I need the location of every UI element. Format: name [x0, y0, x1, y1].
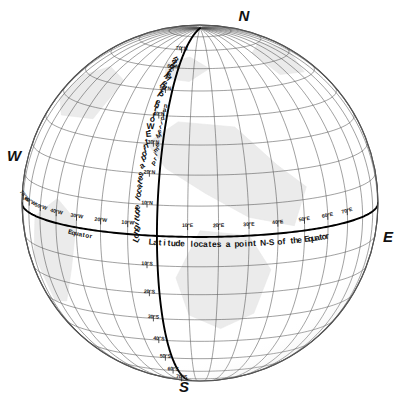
svg-text:a: a: [203, 239, 208, 249]
lat-tick-10°S: 10°S: [141, 260, 153, 267]
svg-text:s: s: [217, 239, 222, 249]
lat-tick-20°S: 20°S: [144, 288, 156, 295]
globe-svg: 10°N20°N30°N40°N50°N60°N70°N10°S20°S30°S…: [0, 0, 400, 400]
lat-tick-50°S: 50°S: [160, 352, 172, 359]
south-pole-label: S: [179, 378, 189, 395]
svg-text:S: S: [269, 237, 276, 247]
lat-tick-60°S: 60°S: [167, 365, 179, 372]
east-label: E: [383, 228, 394, 245]
north-pole-label: N: [239, 7, 251, 24]
sphere-outline: [22, 25, 378, 381]
west-label: W: [7, 147, 23, 164]
lat-tick-30°S: 30°S: [148, 313, 160, 320]
svg-text:l: l: [190, 239, 193, 249]
lat-tick-40°S: 40°S: [153, 335, 165, 342]
svg-text:o: o: [239, 238, 244, 248]
svg-text:e: e: [180, 238, 185, 248]
svg-text:t: t: [208, 239, 211, 249]
globe-diagram-canvas: 10°N20°N30°N40°N50°N60°N70°N10°S20°S30°S…: [0, 0, 400, 400]
svg-text:a: a: [226, 239, 231, 249]
